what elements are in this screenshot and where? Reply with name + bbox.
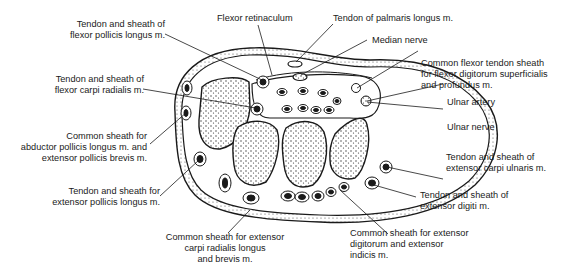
- label-ulnar-artery: Ulnar artery: [447, 97, 495, 108]
- label-median-nerve: Median nerve: [372, 35, 428, 46]
- label-extensor-carpi-radialis-sheath: Common sheath for extensor carpi radiali…: [150, 232, 300, 265]
- label-extensor-pollicis-longus: Tendon and sheath for extensor pollicis …: [52, 186, 160, 208]
- label-flexor-pollicis-longus: Tendon and sheath of flexor pollicis lon…: [70, 19, 165, 41]
- label-palmaris-longus: Tendon of palmaris longus m.: [333, 13, 453, 24]
- label-extensor-digiti: Tendon and sheath of extensor digiti m.: [420, 190, 508, 212]
- label-extensor-carpi-ulnaris: Tendon and sheath of extensor carpi ulna…: [446, 152, 546, 174]
- label-abductor-extensor-pollicis-sheath: Common sheath for abductor pollicis long…: [21, 131, 147, 164]
- label-ulnar-nerve: Ulnar nerve: [447, 122, 495, 133]
- label-flexor-carpi-radialis: Tendon and sheath of flexor carpi radial…: [55, 74, 144, 96]
- label-common-flexor-sheath: Common flexor tendon sheath for flexor d…: [421, 58, 548, 91]
- label-flexor-retinaculum: Flexor retinaculum: [217, 13, 293, 24]
- label-extensor-digitorum-indicis-sheath: Common sheath for extensor digitorum and…: [350, 228, 468, 261]
